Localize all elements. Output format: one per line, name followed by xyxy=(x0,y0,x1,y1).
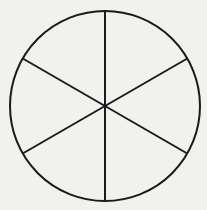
figure-canvas xyxy=(0,0,207,210)
fraction-circle-svg xyxy=(0,0,207,210)
